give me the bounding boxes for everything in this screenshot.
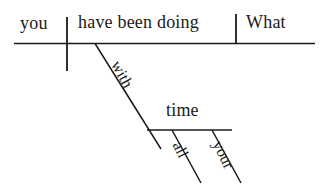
sentence-diagram: you have been doing What with time all y… xyxy=(0,0,323,195)
subject-label: you xyxy=(20,14,48,32)
direct-object-label: What xyxy=(246,13,286,31)
prep-object-label: time xyxy=(166,101,199,119)
preposition-slant-line xyxy=(95,44,161,150)
verb-label: have been doing xyxy=(78,13,199,31)
